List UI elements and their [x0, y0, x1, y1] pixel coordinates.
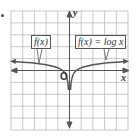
- origin-label: O: [60, 71, 68, 82]
- y-axis-label: y: [73, 7, 77, 18]
- x-axis-label: x: [121, 72, 126, 83]
- right-curve-label: f(x) = log x: [75, 35, 126, 49]
- axes: [11, 11, 129, 128]
- left-curve-label: f(x): [31, 35, 51, 49]
- coordinate-plane: [0, 0, 136, 137]
- label-pointers: [37, 49, 109, 63]
